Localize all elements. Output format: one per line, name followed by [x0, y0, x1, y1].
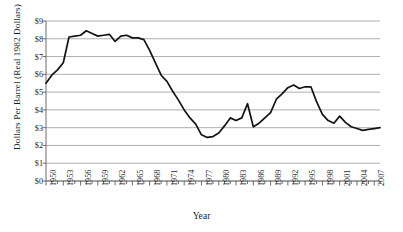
x-tick-label: 1977 [205, 170, 214, 186]
y-tick-label: $4 [35, 105, 43, 114]
x-tick-label: 1971 [170, 170, 179, 186]
plot-svg [46, 21, 380, 181]
x-tick-label: 1983 [239, 170, 248, 186]
y-tick-label: $6 [35, 70, 43, 79]
x-axis-ticks [43, 21, 381, 186]
x-tick-label: 1992 [291, 170, 300, 186]
data-series [46, 31, 380, 138]
axis-lines [46, 21, 380, 181]
y-tick-label: $3 [35, 123, 43, 132]
x-axis-tick-labels: 1950195319561959196219651968197119741977… [46, 184, 380, 210]
x-tick-label: 1959 [101, 170, 110, 186]
x-tick-label: 2007 [377, 170, 386, 186]
y-tick-label: $1 [35, 159, 43, 168]
y-tick-label: $2 [35, 141, 43, 150]
x-tick-label: 1956 [84, 170, 93, 186]
y-axis-tick-labels: $9$8$7$6$5$4$3$2$1$0 [22, 15, 43, 181]
plot-area [46, 21, 380, 181]
x-tick-label: 1995 [308, 170, 317, 186]
x-tick-label: 1962 [118, 170, 127, 186]
series-line-0 [46, 31, 380, 138]
x-tick-label: 1986 [257, 170, 266, 186]
x-axis-title: Year [0, 210, 403, 221]
gridlines [46, 21, 380, 163]
y-tick-label: $9 [35, 17, 43, 26]
x-tick-label: 2001 [343, 170, 352, 186]
x-tick-label: 1974 [187, 170, 196, 186]
x-tick-label: 1965 [136, 170, 145, 186]
x-tick-label: 1980 [222, 170, 231, 186]
y-axis-title: Dollars Per Barrel (Real 1982 Dollars) [12, 0, 22, 157]
oil-price-line-chart: Dollars Per Barrel (Real 1982 Dollars) $… [0, 0, 403, 232]
y-tick-label: $5 [35, 88, 43, 97]
y-tick-label: $0 [35, 177, 43, 186]
x-tick-label: 1989 [274, 170, 283, 186]
y-tick-label: $8 [35, 34, 43, 43]
x-tick-label: 1950 [49, 170, 58, 186]
y-tick-label: $7 [35, 52, 43, 61]
x-tick-label: 2004 [360, 170, 369, 186]
x-tick-label: 1953 [66, 170, 75, 186]
x-tick-label: 1968 [153, 170, 162, 186]
x-tick-label: 1998 [326, 170, 335, 186]
